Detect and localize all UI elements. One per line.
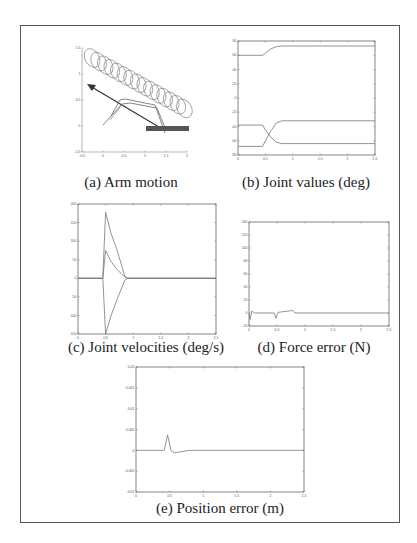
position-error-plot: 00.511.522.50.020.0150.010.0050-0.005-0.… — [0, 0, 417, 543]
series-line — [136, 435, 304, 453]
y-tick-label: 0.005 — [126, 428, 135, 432]
caption-position-error: (e) Position error (m) — [156, 500, 284, 517]
x-tick-label: 2 — [269, 494, 271, 498]
y-tick-label: 0 — [133, 449, 135, 453]
y-tick-label: -0.005 — [125, 469, 135, 473]
y-tick-label: 0.02 — [128, 365, 135, 369]
x-tick-label: 1.5 — [234, 494, 239, 498]
x-tick-label: 1 — [202, 494, 204, 498]
y-tick-label: 0.01 — [128, 407, 135, 411]
y-tick-label: 0.015 — [126, 386, 135, 390]
y-tick-label: -0.01 — [127, 490, 135, 494]
x-tick-label: 2.5 — [302, 494, 307, 498]
x-tick-label: 0.5 — [167, 494, 172, 498]
plot-frame — [136, 367, 304, 492]
x-tick-label: 0 — [135, 494, 137, 498]
